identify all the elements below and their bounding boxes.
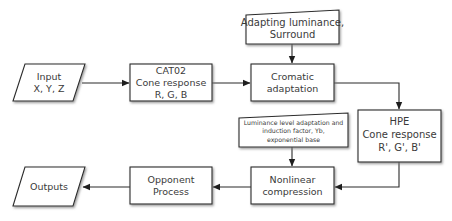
node-cromatic-line-1: Cromatic	[271, 71, 314, 83]
node-outputs: Outputs	[19, 167, 79, 206]
edge-cromatic-to-hpe	[334, 83, 399, 109]
node-opponent: Opponent Process	[130, 167, 212, 204]
node-input-line-2: X, Y, Z	[34, 83, 65, 95]
node-input: Input X, Y, Z	[19, 64, 79, 101]
node-luminance-line-3: exponential base	[267, 136, 320, 145]
node-nonlinear: Nonlinear compression	[251, 167, 334, 204]
node-opponent-line-1: Opponent	[148, 174, 195, 186]
node-cat02-line-2: Cone response	[136, 77, 206, 89]
node-adapting-line-1: Adapting luminance,	[241, 17, 344, 29]
node-hpe-line-1: HPE	[390, 115, 410, 128]
node-adapting-line-2: Surround	[270, 29, 316, 41]
node-luminance-line-2: induction factor, Yb,	[262, 127, 324, 136]
node-hpe: HPE Cone response R', G', B'	[358, 110, 441, 158]
node-nonlinear-line-1: Nonlinear	[270, 174, 316, 186]
node-cromatic-line-2: adaptation	[267, 83, 318, 95]
edge-hpe-to-nonlinear	[335, 162, 399, 187]
node-hpe-line-2: Cone response	[362, 128, 436, 141]
node-opponent-line-2: Process	[153, 186, 189, 198]
node-input-line-1: Input	[37, 71, 62, 83]
node-outputs-line-1: Outputs	[30, 181, 68, 193]
node-hpe-line-3: R', G', B'	[378, 141, 421, 154]
node-nonlinear-line-2: compression	[262, 186, 322, 198]
node-cat02: CAT02 Cone response R, G, B	[130, 64, 212, 101]
node-adapting: Adapting luminance, Surround	[246, 14, 339, 44]
node-cat02-line-3: R, G, B	[155, 89, 188, 101]
node-luminance: Luminance level adaptation and induction…	[239, 116, 348, 147]
node-cromatic: Cromatic adaptation	[251, 64, 334, 101]
node-luminance-line-1: Luminance level adaptation and	[244, 119, 344, 128]
node-cat02-line-1: CAT02	[156, 65, 186, 77]
